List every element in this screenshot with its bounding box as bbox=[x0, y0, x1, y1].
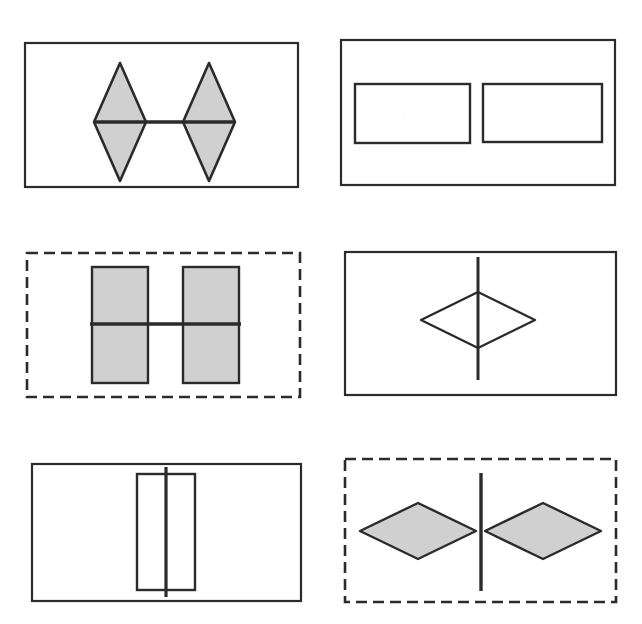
panel-frame-solid bbox=[25, 43, 298, 187]
panel-middle-left bbox=[0, 220, 321, 430]
panel-top-left-canvas bbox=[0, 0, 321, 220]
panel-bottom-left bbox=[0, 430, 321, 624]
panel-middle-left-canvas bbox=[0, 220, 321, 430]
panel-bottom-left-canvas bbox=[0, 430, 321, 624]
panel-top-left bbox=[0, 0, 321, 220]
figure-canvas bbox=[0, 0, 642, 624]
left-diamond-shape bbox=[360, 503, 476, 559]
panel-bottom-right bbox=[321, 430, 642, 624]
panel-top-right-canvas bbox=[321, 0, 642, 220]
right-diamond-shape bbox=[485, 503, 601, 559]
panel-bottom-right-canvas bbox=[321, 430, 642, 624]
panel-frame-solid bbox=[345, 252, 616, 395]
panel-middle-right bbox=[321, 220, 642, 430]
panel-top-right bbox=[321, 0, 642, 220]
panel-middle-right-canvas bbox=[321, 220, 642, 430]
